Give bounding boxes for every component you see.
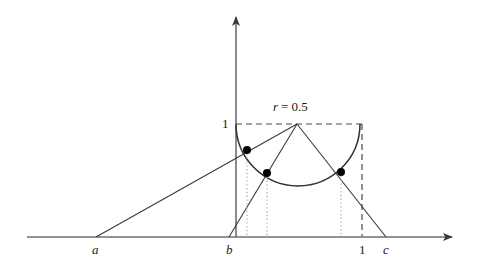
x-axis-tick-label-one: 1: [359, 243, 366, 256]
point-1: [243, 146, 251, 154]
radius-annotation: r=0.5: [273, 100, 308, 113]
ray-from-b: [229, 124, 297, 237]
y-axis-tick-label-one: 1: [222, 117, 229, 130]
radius-variable: r: [273, 99, 278, 114]
geometry-canvas: [0, 0, 478, 268]
x-axis-tick-label-c: c: [383, 243, 389, 256]
ray-from-a: [96, 124, 297, 237]
radius-value: 0.5: [291, 99, 307, 114]
x-axis-tick-label-a: a: [92, 243, 99, 256]
geometry-figure: r=0.5 1 a b 1 c: [0, 0, 478, 268]
radius-equals: =: [281, 99, 288, 114]
point-2: [263, 169, 271, 177]
x-axis-tick-label-b: b: [226, 243, 233, 256]
point-3: [337, 168, 345, 176]
